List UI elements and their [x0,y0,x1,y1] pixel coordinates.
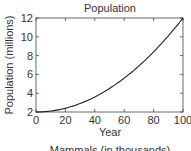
plot-frame [36,18,183,112]
population-line [36,18,183,112]
y-tick-label: 12 [21,12,33,24]
x-axis-label: Year [99,126,122,138]
y-axis-ticks: 24681012 [21,12,183,118]
x-tick-label: 0 [33,114,39,126]
y-axis-label: Population (millions) [3,15,15,114]
y-tick-label: 6 [27,68,33,80]
chart-title: Population [84,2,136,14]
chart-footer: Mammals (in thousands) [50,144,170,151]
x-tick-label: 60 [118,114,130,126]
x-tick-label: 20 [59,114,71,126]
population-chart: Population 24681012 020406080100 Year Po… [0,0,191,151]
x-tick-label: 100 [174,114,191,126]
x-tick-label: 80 [147,114,159,126]
y-tick-label: 8 [27,50,33,62]
x-tick-label: 40 [89,114,101,126]
y-tick-label: 4 [27,87,33,99]
y-tick-label: 10 [21,31,33,43]
